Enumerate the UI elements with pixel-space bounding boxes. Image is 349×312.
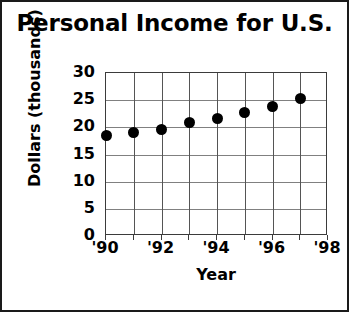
x-axis-tick-mark [244,235,245,240]
chart-title: Personal Income for U.S. [2,10,347,36]
gridline-horizontal [106,155,326,156]
data-point [267,101,278,112]
x-axis-tick-mark [133,235,134,240]
x-axis-tick-label: '90 [80,240,130,256]
x-axis-tick-label: '94 [191,240,241,256]
gridline-horizontal [106,127,326,128]
data-point [239,107,250,118]
y-axis-tick-label: 20 [49,118,95,134]
plot-area [105,72,327,235]
y-axis-tick-label: 30 [49,64,95,80]
y-axis-label: Dollars (thousands) [25,12,44,187]
y-axis-tick-label: 15 [49,146,95,162]
y-axis-tick-label: 10 [49,173,95,189]
y-axis-tick-label: 25 [49,91,95,107]
data-point [101,130,112,141]
gridline-vertical [273,73,274,234]
y-axis-tick-label: 5 [49,200,95,216]
x-axis-tick-label: '96 [247,240,297,256]
gridline-vertical [245,73,246,234]
data-point [212,113,223,124]
x-axis-tick-mark [188,235,189,240]
x-axis-tick-mark [299,235,300,240]
gridline-horizontal [106,182,326,183]
x-axis-tick-label: '98 [302,240,349,256]
x-axis-tick-label: '92 [136,240,186,256]
gridline-vertical [162,73,163,234]
gridline-vertical [134,73,135,234]
x-axis-label: Year [105,265,327,284]
gridline-horizontal [106,100,326,101]
data-point [156,124,167,135]
data-point [128,127,139,138]
data-point [295,93,306,104]
gridline-vertical [217,73,218,234]
chart-figure: Personal Income for U.S. Dollars (thousa… [0,0,349,312]
gridline-horizontal [106,209,326,210]
gridline-vertical [189,73,190,234]
